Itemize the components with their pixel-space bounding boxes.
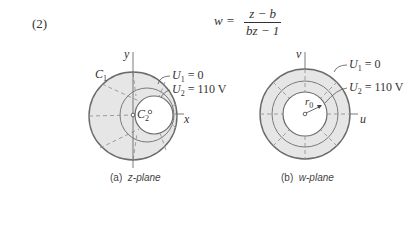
origin-point [131,113,135,117]
c1-label: C1 [95,67,107,83]
r0-label: r0 [305,95,313,110]
u1-leader [334,65,347,72]
caption-b: (b) w-plane [281,172,334,183]
x-axis-label: x [184,112,189,127]
u2-label-z: U2 = 110 V [172,82,226,98]
caption-a: (a) z-plane [110,172,161,183]
c2-label: C2 [137,107,149,123]
u2-label-w: U2 = 110 V [349,80,403,96]
u-axis-label: u [360,112,366,127]
u1-label-w: U1 = 0 [349,57,380,73]
v-axis-label: v [296,47,301,62]
y-axis-label: y [124,47,129,62]
